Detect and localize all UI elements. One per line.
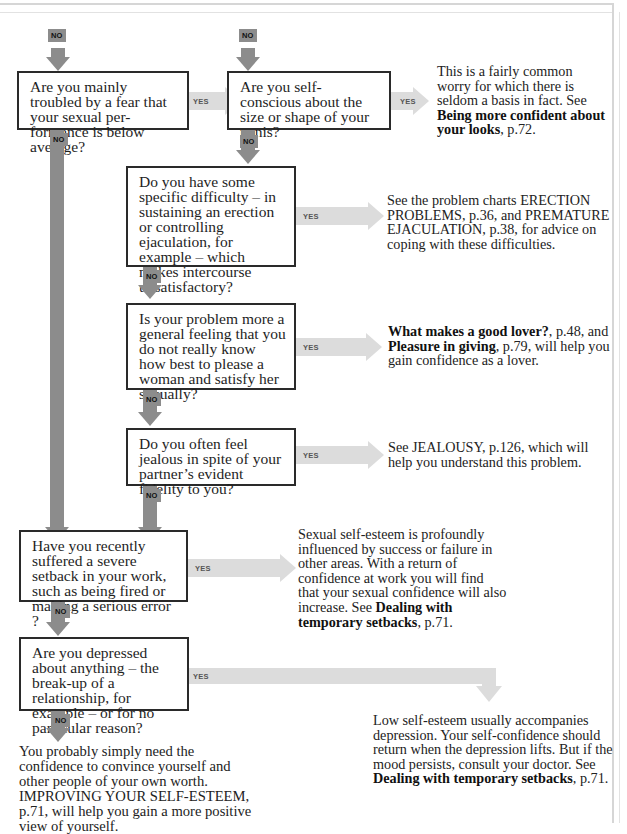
entry-arrow-left-head [46, 57, 70, 71]
no-label-q3: NO [143, 270, 161, 283]
answer-text: You probably simply need the confidence … [19, 743, 251, 834]
no-arrow-q7-head [46, 728, 70, 742]
yes-arrow-q7-elbow [482, 668, 496, 688]
answer-q6: Sexual self-esteem is profoundly influen… [298, 527, 508, 629]
answer-q7: Low self-esteem usually accompanies depr… [373, 713, 613, 786]
answer-link-good-lover: What makes a good lover? [388, 323, 549, 339]
question-text: Do you often feel jealous in spite of yo… [139, 435, 281, 497]
no-label-q7: NO [52, 714, 70, 727]
answer-text: Low self-esteem usually accompanies depr… [373, 712, 613, 772]
final-answer: You probably simply need the confidence … [19, 744, 259, 834]
entry-no-label-right: NO [239, 29, 257, 42]
frame-rule-right [612, 3, 614, 823]
question-text: Is your problem more a general feeling t… [139, 310, 286, 402]
no-label-q2: NO [240, 135, 258, 148]
yes-label-q3: YES [303, 212, 319, 221]
question-box-q3: Do you have some specific difficulty – i… [126, 166, 296, 267]
no-label-q5: NO [143, 489, 161, 502]
answer-text: , p.71. [573, 770, 608, 786]
question-box-q1: Are you mainly troubled by a fear that y… [17, 71, 189, 130]
yes-arrow-q3-head [368, 202, 384, 230]
yes-label-q1: YES [193, 97, 209, 106]
entry-arrow-right-head [236, 57, 260, 71]
answer-text: , p.72. [500, 121, 535, 137]
yes-arrow-q6-head [280, 554, 296, 582]
yes-label-q7: YES [193, 672, 209, 681]
entry-no-label-left: NO [48, 29, 66, 42]
yes-label-q4: YES [303, 343, 319, 352]
yes-arrow-q5-head [368, 441, 384, 469]
answer-q4: What makes a good lover?, p.48, and Plea… [388, 324, 613, 368]
question-box-q6: Have you recently suffered a severe setb… [19, 530, 188, 602]
no-label-q1-tag: NO [50, 133, 68, 146]
answer-text: See the problem charts ERECTION PROBLEMS… [387, 192, 609, 252]
answer-q2: This is a fairly common worry for which … [437, 64, 607, 137]
question-box-q4: Is your problem more a general feeling t… [126, 303, 296, 390]
frame-rule-right-inner [619, 12, 620, 823]
answer-text: This is a fairly common worry for which … [437, 63, 587, 108]
no-arrow-q3-head [138, 285, 162, 299]
answer-text: See JEALOUSY, p.126, which will help you… [388, 439, 588, 470]
yes-label-q5: YES [303, 451, 319, 460]
answer-q5: See JEALOUSY, p.126, which will help you… [388, 440, 613, 469]
no-arrow-q1-trunk [50, 130, 64, 530]
yes-label-q6: YES [195, 564, 211, 573]
question-box-q2: Are you self-conscious about the size or… [227, 71, 391, 130]
no-label-q6: NO [52, 605, 70, 618]
yes-arrow-q7-head [476, 686, 502, 702]
question-text: Are you self-conscious about the size or… [240, 78, 369, 140]
frame-rule-top-inner [0, 12, 612, 13]
yes-arrow-q4-head [366, 333, 382, 361]
yes-label-q2: YES [400, 97, 416, 106]
question-box-q7: Are you depressed about anything – the b… [19, 637, 189, 711]
no-label-q4: NO [143, 393, 161, 406]
answer-link-pleasure-in-giving: Pleasure in giving [388, 338, 496, 354]
no-arrow-q2-head [236, 150, 260, 164]
answer-link-dealing-with-setbacks: Dealing with temporary setbacks [373, 770, 573, 786]
question-box-q5: Do you often feel jealous in spite of yo… [126, 428, 296, 486]
answer-text: , p.48, and [549, 323, 609, 339]
no-arrow-q4-head [138, 412, 162, 426]
frame-rule-top [0, 3, 612, 5]
no-arrow-q6-head [46, 622, 70, 636]
yes-arrow-q7 [189, 668, 496, 684]
answer-text: , p.71. [417, 614, 452, 630]
answer-q3: See the problem charts ERECTION PROBLEMS… [387, 193, 612, 251]
